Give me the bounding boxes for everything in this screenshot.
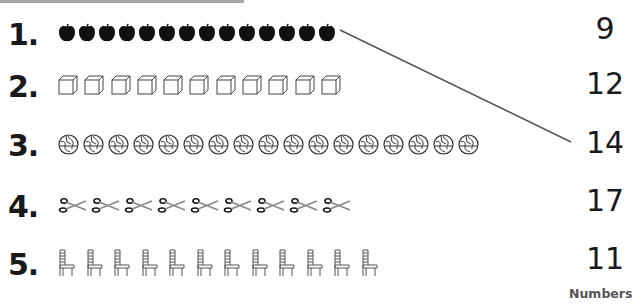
chair-icon	[86, 249, 114, 279]
scissors-icon	[124, 195, 157, 217]
cube-icon	[189, 75, 215, 97]
globe-icon	[358, 134, 383, 156]
globe-icon	[58, 134, 83, 156]
apple-icon	[218, 23, 238, 45]
cube-icon	[111, 75, 137, 97]
cube-icon	[321, 75, 347, 97]
cube-icon	[84, 75, 110, 97]
chair-icon	[223, 249, 251, 279]
apple-group[interactable]	[58, 23, 338, 45]
answer-9[interactable]: 9	[570, 11, 640, 46]
row-5: 5.	[8, 246, 388, 282]
apple-icon	[318, 23, 338, 45]
scissors-group[interactable]	[58, 195, 355, 217]
scissors-icon	[289, 195, 322, 217]
row-label: 5.	[8, 247, 58, 282]
apple-icon	[278, 23, 298, 45]
scissors-icon	[58, 195, 91, 217]
row-label: 1.	[8, 17, 58, 52]
globe-icon	[83, 134, 108, 156]
row-4: 4.	[8, 188, 355, 224]
globe-group[interactable]	[58, 134, 483, 156]
apple-icon	[78, 23, 98, 45]
globe-icon	[208, 134, 233, 156]
apple-icon	[298, 23, 318, 45]
chair-icon	[141, 249, 169, 279]
cube-icon	[58, 75, 84, 97]
chair-icon	[58, 249, 86, 279]
row-label: 3.	[8, 128, 58, 163]
globe-icon	[258, 134, 283, 156]
row-3: 3.	[8, 127, 483, 163]
globe-icon	[183, 134, 208, 156]
chair-icon	[333, 249, 361, 279]
globe-icon	[233, 134, 258, 156]
apple-icon	[198, 23, 218, 45]
row-2: 2.	[8, 68, 347, 104]
globe-icon	[458, 134, 483, 156]
chair-group[interactable]	[58, 249, 388, 279]
chair-icon	[168, 249, 196, 279]
chair-icon	[196, 249, 224, 279]
scissors-icon	[91, 195, 124, 217]
chair-icon	[306, 249, 334, 279]
globe-icon	[433, 134, 458, 156]
answer-14[interactable]: 14	[570, 125, 640, 160]
cube-icon	[242, 75, 268, 97]
chair-icon	[278, 249, 306, 279]
globe-icon	[333, 134, 358, 156]
globe-icon	[133, 134, 158, 156]
apple-icon	[118, 23, 138, 45]
apple-icon	[258, 23, 278, 45]
globe-icon	[408, 134, 433, 156]
scissors-icon	[322, 195, 355, 217]
apple-icon	[158, 23, 178, 45]
row-1: 1.	[8, 16, 338, 52]
scissors-icon	[223, 195, 256, 217]
cube-icon	[216, 75, 242, 97]
cube-icon	[295, 75, 321, 97]
cube-icon	[268, 75, 294, 97]
scissors-icon	[256, 195, 289, 217]
scissors-icon	[157, 195, 190, 217]
globe-icon	[383, 134, 408, 156]
globe-icon	[283, 134, 308, 156]
numbers-label: Numbers	[569, 286, 632, 301]
chair-icon	[113, 249, 141, 279]
cube-group[interactable]	[58, 75, 347, 97]
answer-12[interactable]: 12	[570, 66, 640, 101]
apple-icon	[238, 23, 258, 45]
globe-icon	[108, 134, 133, 156]
chair-icon	[361, 249, 389, 279]
globe-icon	[158, 134, 183, 156]
apple-icon	[138, 23, 158, 45]
globe-icon	[308, 134, 333, 156]
cube-icon	[137, 75, 163, 97]
row-label: 4.	[8, 189, 58, 224]
scissors-icon	[190, 195, 223, 217]
apple-icon	[98, 23, 118, 45]
chair-icon	[251, 249, 279, 279]
answer-17[interactable]: 17	[570, 183, 640, 218]
apple-icon	[58, 23, 78, 45]
apple-icon	[178, 23, 198, 45]
cube-icon	[163, 75, 189, 97]
row-label: 2.	[8, 69, 58, 104]
answer-11[interactable]: 11	[570, 241, 640, 276]
